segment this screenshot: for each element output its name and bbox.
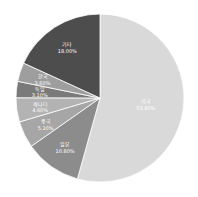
slice-value: 10.80% xyxy=(56,148,75,154)
slice-value: 18.00% xyxy=(58,48,77,54)
slice-value: 3.60% xyxy=(35,80,51,86)
slice-label: 일본 xyxy=(60,141,70,147)
slice-value: 3.10% xyxy=(32,92,48,98)
pie-chart: 미국53.80%일본10.80%중국5.10%캐나다4.60%독일3.10%한국… xyxy=(0,0,198,197)
slice-value: 5.10% xyxy=(38,125,54,131)
slice-value: 53.80% xyxy=(136,105,155,111)
slice-value: 4.60% xyxy=(32,107,48,113)
